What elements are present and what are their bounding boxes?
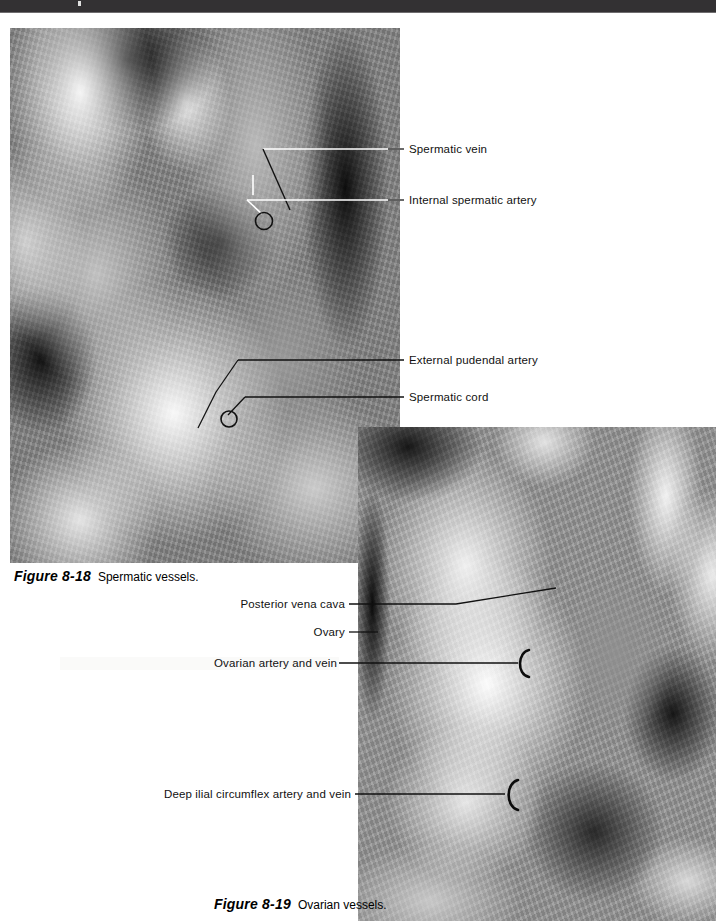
page-header-band (0, 0, 716, 13)
figure-8-18-title: Spermatic vessels. (98, 570, 199, 584)
header-band-mark (78, 1, 81, 6)
label-internal-spermatic-artery: Internal spermatic artery (409, 194, 537, 207)
figure-8-19-photo-texture (358, 427, 716, 921)
figure-8-19-number: Figure 8-19 (214, 896, 291, 912)
figure-8-19-caption: Figure 8-19Ovarian vessels. (214, 896, 387, 912)
label-spermatic-cord: Spermatic cord (409, 391, 488, 404)
figure-8-19-photograph (358, 427, 716, 921)
figure-8-18-caption: Figure 8-18Spermatic vessels. (14, 568, 199, 584)
label-posterior-vena-cava: Posterior vena cava (60, 598, 345, 611)
label-external-pudendal-artery: External pudendal artery (409, 354, 538, 367)
figure-8-18-number: Figure 8-18 (14, 568, 91, 584)
figure-8-19-title: Ovarian vessels. (298, 898, 387, 912)
label-deep-ilial-circumflex-artery-and-vein: Deep ilial circumflex artery and vein (60, 788, 351, 801)
figure-8-18-photo-texture (10, 28, 400, 563)
header-band-seam (0, 12, 716, 13)
label-ovary: Ovary (60, 626, 345, 639)
label-spermatic-vein: Spermatic vein (409, 143, 487, 156)
figure-8-18-photograph (10, 28, 400, 563)
label-ovarian-artery-and-vein: Ovarian artery and vein (60, 657, 339, 670)
